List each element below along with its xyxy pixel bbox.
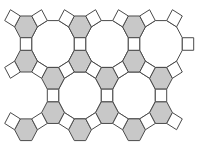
dodecagon-tile	[32, 21, 75, 68]
square-tile	[182, 38, 193, 51]
square-tile	[155, 89, 166, 102]
dodecagon-tile	[113, 72, 156, 119]
dodecagon-tile	[140, 21, 183, 68]
tiling-canvas	[0, 0, 207, 152]
square-tile	[47, 89, 58, 102]
square-tile	[20, 38, 31, 51]
square-tile	[128, 38, 139, 51]
tiling-figure: Truncated trihexagonal tiling (4.6.12)	[0, 0, 207, 152]
dodecagon-tile	[59, 72, 102, 119]
square-tile	[74, 38, 85, 51]
square-tile	[101, 89, 112, 102]
dodecagon-tile	[86, 21, 129, 68]
